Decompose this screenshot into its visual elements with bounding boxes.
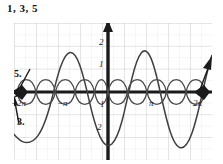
callout-label-5: 5. (14, 68, 22, 79)
y-tick-label-2: 2 (99, 37, 104, 47)
y-tick-label-neg1: 1 (100, 99, 105, 109)
x-tick-label-neg2pi: −2π (11, 98, 26, 108)
x-tick-label-2pi: 2π (193, 98, 202, 108)
page-title: 1, 3, 5 (7, 2, 38, 14)
callout-label-3: 3. (17, 116, 25, 127)
y-tick-label-neg2: 2 (97, 122, 102, 132)
plot-area (14, 23, 212, 160)
trig-graph-svg (14, 23, 212, 160)
x-tick-label-negpi: −π (57, 98, 68, 108)
figure-root: 1, 3, 5 (0, 0, 223, 164)
y-tick-label-1: 1 (99, 59, 104, 69)
x-tick-label-pi: π (149, 98, 154, 108)
